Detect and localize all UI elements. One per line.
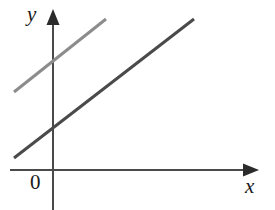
y-axis-label: y — [27, 4, 36, 25]
figure-background — [0, 0, 275, 210]
figure-canvas: y x 0 — [0, 0, 275, 210]
coordinate-plane-graphic — [0, 0, 275, 210]
x-axis-label: x — [245, 176, 254, 197]
origin-label: 0 — [30, 172, 41, 193]
